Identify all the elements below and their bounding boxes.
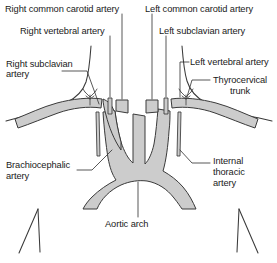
label-thyrocervical-trunk-line1: Thyrocervical xyxy=(207,75,273,86)
label-left-vertebral-artery: Left vertebral artery xyxy=(190,57,269,68)
label-internal-thoracic-artery-line2: thoracic xyxy=(213,167,245,178)
left-common-carotid-artery xyxy=(146,100,158,113)
left-subclavian-artery xyxy=(171,98,258,128)
label-brachiocephalic-artery-line1: Brachiocephalic xyxy=(6,160,70,171)
label-aortic-arch: Aortic arch xyxy=(105,219,148,230)
label-internal-thoracic-artery-line3: artery xyxy=(213,178,236,189)
aortic-arch-figure: Right common carotid artery Right verteb… xyxy=(0,0,277,263)
label-left-common-carotid-artery: Left common carotid artery xyxy=(145,4,253,15)
lower-rib-outlines xyxy=(19,209,258,253)
label-right-subclavian-artery-line1: Right subclavian xyxy=(6,59,73,70)
right-rib-inner xyxy=(237,209,239,252)
vessel-group xyxy=(15,98,258,209)
right-vertebral-artery xyxy=(108,98,112,114)
label-right-subclavian-artery-line2: artery xyxy=(6,69,29,80)
label-thyrocervical-trunk-line2: trunk xyxy=(207,86,273,97)
label-internal-thoracic-artery-line1: Internal xyxy=(213,156,243,167)
right-subclavian-artery xyxy=(15,98,102,128)
label-left-subclavian-artery: Left subclavian artery xyxy=(159,26,245,37)
left-rib-inner xyxy=(38,209,40,252)
label-brachiocephalic-artery-line2: artery xyxy=(6,171,29,182)
label-right-vertebral-artery: Right vertebral artery xyxy=(20,26,105,37)
right-common-carotid-artery xyxy=(116,100,128,113)
left-vertebral-artery xyxy=(164,98,168,114)
left-rib-outer xyxy=(19,209,38,253)
right-internal-thoracic-artery xyxy=(96,112,100,156)
left-internal-thoracic-artery xyxy=(177,112,181,156)
leader-internal-thoracic xyxy=(180,150,210,163)
right-rib-outer xyxy=(239,209,258,253)
label-right-common-carotid-artery: Right common carotid artery xyxy=(5,4,119,15)
